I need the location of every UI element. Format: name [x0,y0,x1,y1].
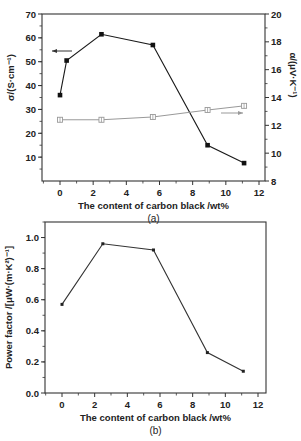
y-axis-title: Power factor /[μW·(m·K²)⁻¹] [3,246,14,369]
x-axis: 024681012The content of carbon black /wt… [46,393,264,436]
y-tick-label: 0.6 [26,294,39,305]
data-marker [151,43,156,48]
y-right-tick-label: 20 [271,9,282,20]
x-axis-title: The content of carbon black /wt% [80,412,232,423]
data-marker [242,370,245,373]
plot-frame [45,222,266,393]
y-right-tick-label: 10 [271,148,282,159]
plot-frame [42,14,265,181]
y-right-tick-label: 14 [271,92,282,103]
y-tick-label: 0.4 [26,325,40,336]
data-marker [101,242,104,245]
y-right-tick-label: 16 [271,64,282,75]
data-marker [152,248,155,251]
y-tick-label: 10 [25,152,36,163]
x-tick-label: 4 [125,399,131,410]
series-right [58,103,247,122]
x-tick-label: 8 [190,187,195,198]
x-axis-title: The content of carbon black /wt% [78,200,230,211]
y-tick-label: 70 [25,9,36,20]
y-right-axis-title: α/(μV·K⁻¹) [288,52,299,97]
series-main [61,242,245,372]
y-tick-label: 1.0 [26,232,39,243]
y-tick-label: 0.2 [26,356,39,367]
x-axis: 024681012The content of carbon black /wt… [43,181,264,224]
data-marker [205,143,210,148]
y-axis-title: σ/(S·cm⁻¹) [5,54,16,101]
panel-b: 024681012The content of carbon black /wt… [3,222,266,436]
y-tick-label: 20 [25,128,36,139]
y-axis-left: 10203040506070σ/(S·cm⁻¹) [5,9,42,170]
y-tick-label: 0.0 [26,388,39,399]
x-tick-label: 2 [91,187,96,198]
data-marker [58,93,63,98]
y-tick-label: 40 [25,80,36,91]
x-tick-label: 12 [253,399,264,410]
data-marker [206,351,209,354]
y-tick-label: 60 [25,32,36,43]
figure: 024681012The content of carbon black /wt… [0,0,301,441]
x-tick-label: 6 [157,399,162,410]
x-tick-label: 12 [254,187,265,198]
y-right-tick-label: 18 [271,36,282,47]
data-marker [99,32,104,37]
data-marker [61,303,64,306]
x-tick-label: 2 [92,399,97,410]
x-tick-label: 0 [57,187,62,198]
y-tick-label: 0.8 [26,263,39,274]
y-tick-label: 50 [25,56,36,67]
y-tick-label: 30 [25,104,36,115]
data-marker [64,58,69,63]
series-left [58,32,247,165]
data-marker [242,161,247,166]
panel-label: (b) [149,425,161,436]
panel-a: 024681012The content of carbon black /wt… [5,9,299,225]
x-tick-label: 0 [59,399,64,410]
arrow-right-icon [221,111,243,115]
y-right-tick-label: 8 [271,176,276,187]
y-right-tick-label: 12 [271,120,282,131]
y-axis-left: 0.00.20.40.60.81.0Power factor /[μW·(m·K… [3,222,45,399]
arrow-left-icon [52,49,72,53]
x-tick-label: 8 [190,399,195,410]
y-axis-right: 8101214161820α/(μV·K⁻¹) [265,9,299,187]
x-tick-label: 10 [220,399,231,410]
x-tick-label: 4 [124,187,130,198]
x-tick-label: 6 [157,187,162,198]
x-tick-label: 10 [221,187,232,198]
